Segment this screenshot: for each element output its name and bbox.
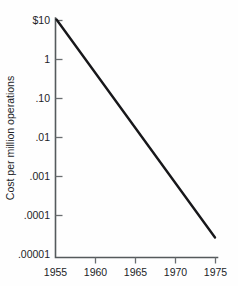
y-tick-label-0-01: .01	[35, 131, 50, 143]
chart-container: $10 1 .10 .01 .001 .0001 .00001 1955 196…	[0, 0, 238, 286]
axis-spines	[56, 18, 218, 258]
log-line-chart: $10 1 .10 .01 .001 .0001 .00001 1955 196…	[0, 0, 238, 286]
x-tick-label-1965: 1965	[124, 266, 148, 278]
y-tick-label-10: $10	[32, 14, 50, 26]
y-tick-label-0-0001: .0001	[24, 209, 50, 221]
x-tick-marks	[96, 258, 216, 264]
x-tick-label-1975: 1975	[204, 266, 228, 278]
y-tick-label-0-10: .10	[35, 92, 50, 104]
y-tick-label-1: 1	[44, 53, 50, 65]
y-tick-label-0-00001: .00001	[18, 248, 50, 260]
x-tick-label-1970: 1970	[164, 266, 188, 278]
x-tick-label-1960: 1960	[84, 266, 108, 278]
y-tick-marks	[56, 21, 63, 216]
x-tick-label-1955: 1955	[44, 266, 68, 278]
cost-trend-line	[57, 20, 216, 238]
y-tick-label-0-001: .001	[30, 170, 51, 182]
y-axis-title: Cost per million operations	[4, 76, 16, 200]
